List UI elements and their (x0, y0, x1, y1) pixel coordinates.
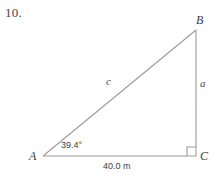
vertex-label-a: A (29, 150, 36, 162)
right-angle-marker-icon (187, 147, 196, 156)
vertex-label-c: C (200, 150, 208, 162)
side-label-c: c (106, 76, 111, 87)
figure-container: 10. B C A c a 39.4° 40.0 m (0, 0, 217, 179)
side-label-a: a (200, 78, 206, 89)
side-c-hypotenuse-line (43, 30, 196, 156)
angle-label-at-a: 39.4° (61, 140, 82, 150)
base-measure-label: 40.0 m (103, 161, 131, 171)
vertex-label-b: B (196, 14, 203, 26)
